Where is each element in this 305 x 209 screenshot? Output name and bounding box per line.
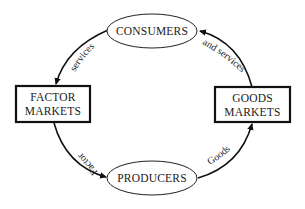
consumers-label: CONSUMERS	[116, 25, 188, 37]
edge-label-factor: Factor	[74, 151, 99, 178]
producers-label: PRODUCERS	[117, 172, 187, 184]
goods-markets-label-line2: MARKETS	[224, 106, 280, 118]
arrow-factor-markets-to-producers	[54, 123, 106, 177]
node-consumers: CONSUMERS	[107, 14, 197, 48]
factor-markets-label-line1: FACTOR	[30, 91, 76, 103]
circular-flow-diagram: services and services Factor Goods CONSU…	[0, 0, 305, 209]
node-goods-markets: GOODS MARKETS	[215, 87, 290, 122]
goods-markets-label-line1: GOODS	[232, 92, 273, 104]
factor-markets-label-line2: MARKETS	[25, 105, 81, 117]
node-factor-markets: FACTOR MARKETS	[16, 86, 90, 122]
edge-label-and-services: and services	[201, 36, 248, 74]
node-producers: PRODUCERS	[107, 161, 197, 195]
